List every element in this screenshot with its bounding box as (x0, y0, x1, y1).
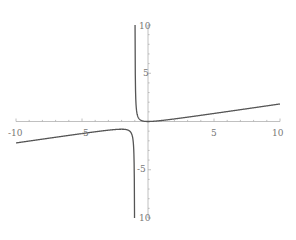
function-plot: -10 -5 5 10 10 5 -5 10 (0, 0, 296, 240)
y-tick-label: 10 (139, 21, 151, 31)
x-tick-label: -5 (80, 128, 89, 138)
y-tick-label: 10 (139, 213, 151, 223)
y-tick-label: 5 (143, 68, 149, 78)
x-tick-label: -10 (8, 128, 23, 138)
curve-left-branch (16, 129, 135, 218)
x-tick-label: 10 (272, 128, 284, 138)
curve-right-branch (135, 25, 280, 122)
y-tick-label: -5 (137, 164, 146, 174)
x-tick-label: 5 (211, 128, 217, 138)
